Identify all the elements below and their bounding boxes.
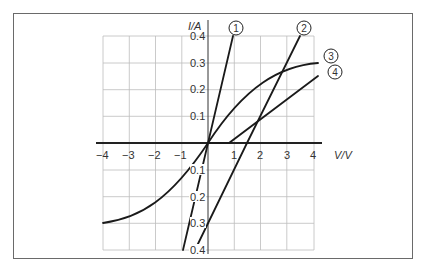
curve-label-3: 3	[328, 51, 334, 62]
x-tick-labels: −4 −3 −2 −1 1 2 3 4 V/V	[96, 149, 353, 161]
y-tick: 0.3	[190, 217, 205, 229]
x-tick: −2	[148, 149, 161, 161]
x-tick: −1	[174, 149, 187, 161]
y-tick: 0.1	[190, 110, 205, 122]
y-tick: 0.3	[190, 57, 205, 69]
x-tick: 1	[231, 149, 237, 161]
iv-characteristics-graph: −4 −3 −2 −1 1 2 3 4 V/V I/A 0.1 0.2 0.3 …	[0, 0, 433, 272]
x-tick: −3	[122, 149, 135, 161]
x-axis-label: V/V	[334, 149, 353, 161]
y-tick: 0.1	[190, 164, 205, 176]
x-tick: 2	[257, 149, 263, 161]
curve-label-2: 2	[301, 23, 307, 34]
y-tick: 0.4	[190, 244, 205, 256]
y-tick: 0.2	[190, 191, 205, 203]
x-tick: 4	[310, 149, 316, 161]
x-tick: −4	[96, 149, 109, 161]
curve-label-1: 1	[233, 23, 239, 34]
y-tick: 0.2	[190, 83, 205, 95]
curve-label-4: 4	[332, 67, 338, 78]
y-tick: 0.4	[190, 30, 205, 42]
x-tick: 3	[284, 149, 290, 161]
